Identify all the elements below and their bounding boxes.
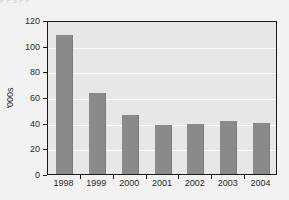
bar (56, 35, 73, 174)
clipped-caption-text: p p g p p (0, 0, 289, 2)
x-tick-label: 2003 (218, 178, 238, 188)
bar-series (48, 22, 276, 174)
x-tick-label: 2004 (251, 178, 271, 188)
bar (187, 124, 204, 174)
bar (220, 121, 237, 174)
x-tick-label: 2002 (185, 178, 205, 188)
bar (89, 93, 106, 174)
plot-area (47, 21, 277, 175)
x-tick-label: 2001 (152, 178, 172, 188)
bar (253, 123, 270, 174)
bar (122, 115, 139, 174)
y-axis-ticks (0, 21, 47, 175)
x-tick-label: 1999 (86, 178, 106, 188)
x-axis-tick-labels: 1998199920002001200220032004 (47, 178, 277, 192)
bar (155, 125, 172, 174)
x-tick-label: 2000 (119, 178, 139, 188)
x-tick-label: 1998 (53, 178, 73, 188)
bar-chart-figure: '000s 020406080100120 199819992000200120… (0, 6, 289, 200)
